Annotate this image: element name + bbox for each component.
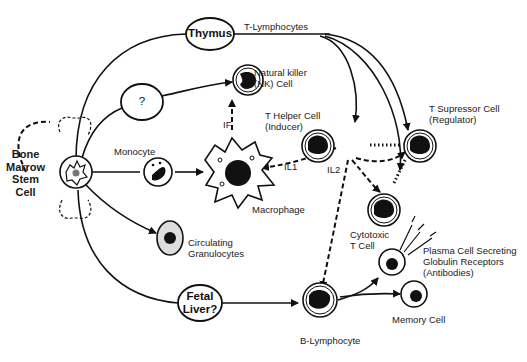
label-il1: IL1: [284, 161, 297, 172]
label-t-lymphocytes: T-Lymphocytes: [244, 21, 308, 32]
fetal-line1: Fetal: [178, 290, 222, 303]
edge-unknown-nk: [162, 82, 232, 96]
gran-line2: Granulocytes: [188, 248, 244, 259]
plasma-line1: Plasma Cell Secreting: [423, 245, 516, 256]
edge-stem-granulocytes: [86, 185, 156, 233]
edge-t-cytotoxic: [325, 36, 401, 170]
t-helper-cell-icon: [302, 130, 334, 162]
stem-line2: Marrow: [6, 161, 45, 174]
supp-line1: T Supressor Cell: [429, 103, 500, 114]
b-lymphocyte-icon: [303, 283, 337, 317]
edge-t-suppressor: [325, 34, 408, 130]
diagram-canvas: [0, 0, 527, 362]
nk-line1: Natural killer: [254, 67, 307, 78]
label-fetal-liver: Fetal Liver?: [178, 290, 222, 316]
label-il2: IL2: [327, 164, 340, 175]
helper-line1: T Helper Cell: [265, 110, 320, 121]
label-if: IF: [223, 119, 231, 130]
memory-cell-icon: [401, 281, 427, 307]
label-cytotoxic: Cytotoxic T Cell: [350, 229, 389, 251]
stem-line1: Bone: [6, 148, 45, 161]
label-nk-cell: Natural killer (NK) Cell: [254, 67, 307, 89]
macrophage-icon: [205, 138, 274, 208]
cyto-line2: T Cell: [350, 240, 389, 251]
edge-b-memory: [340, 294, 400, 297]
plasma-line3: (Antibodies): [423, 267, 516, 278]
helper-line2: (Inducer): [265, 121, 320, 132]
label-granulocytes: Circulating Granulocytes: [188, 237, 244, 259]
label-memory-cell: Memory Cell: [392, 314, 445, 325]
label-plasma-cell: Plasma Cell Secreting Globulin Receptors…: [423, 245, 516, 278]
stem-line4: Cell: [6, 186, 45, 199]
edge-il2-cytotoxic: [352, 160, 380, 192]
granulocyte-icon: [157, 221, 183, 255]
plasma-line2: Globulin Receptors: [423, 256, 516, 267]
edge-il2-suppressor: [356, 152, 405, 161]
label-unknown-organ: ?: [132, 95, 152, 108]
stem-cell-icon: [59, 117, 92, 218]
cytotoxic-cell-icon: [368, 194, 400, 226]
t-suppressor-cell-icon: [404, 130, 436, 162]
stem-line3: Stem: [6, 173, 45, 186]
label-t-suppressor: T Supressor Cell (Regulator): [429, 103, 500, 125]
suppression-cytotoxic: [393, 160, 405, 185]
supp-line2: (Regulator): [429, 114, 500, 125]
label-monocyte: Monocyte: [114, 146, 155, 157]
label-macrophage: Macrophage: [252, 204, 305, 215]
fetal-line2: Liver?: [178, 303, 222, 316]
monocyte-icon: [144, 158, 172, 186]
label-stem-cell: Bone Marrow Stem Cell: [6, 148, 45, 198]
nk-line2: (NK) Cell: [254, 78, 307, 89]
edge-helper-b: [322, 160, 348, 288]
label-thymus: Thymus: [186, 27, 234, 40]
label-t-helper: T Helper Cell (Inducer): [265, 110, 320, 132]
label-b-lymphocyte: B-Lymphocyte: [300, 335, 360, 346]
gran-line1: Circulating: [188, 237, 244, 248]
cyto-line1: Cytotoxic: [350, 229, 389, 240]
